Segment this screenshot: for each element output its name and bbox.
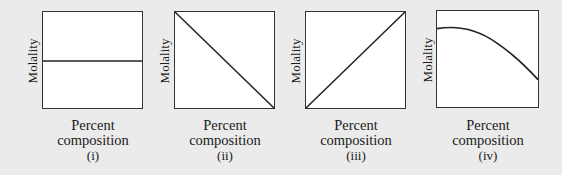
x-axis-label-line1: Percent [23, 118, 163, 133]
panel-i: Molality Percent composition (i) [23, 0, 163, 175]
increasing-line [306, 12, 405, 108]
y-axis-label: Molality [289, 31, 303, 91]
constant-line [43, 12, 142, 108]
panel-tag: (i) [23, 149, 163, 163]
x-axis-label-line2: composition [155, 133, 295, 148]
plot-area [436, 10, 539, 108]
panel-iii: Molality Percent composition (iii) [286, 0, 426, 175]
panel-ii: Molality Percent composition (ii) [155, 0, 295, 175]
y-axis-label: Molality [26, 31, 40, 91]
plot-area [305, 11, 406, 109]
panel-tag: (iii) [286, 149, 426, 163]
x-axis-label-line1: Percent [155, 118, 295, 133]
panel-tag: (iv) [418, 149, 558, 163]
x-axis-label-line1: Percent [418, 118, 558, 133]
y-axis-label: Molality [421, 30, 435, 90]
panel-iv: Molality Percent composition (iv) [418, 0, 558, 175]
x-axis-label-line1: Percent [286, 118, 426, 133]
x-axis-label-line2: composition [418, 133, 558, 148]
concave-down-curve [437, 11, 538, 107]
decreasing-line [175, 12, 274, 108]
x-axis-label-line2: composition [286, 133, 426, 148]
y-axis-label: Molality [158, 31, 172, 91]
x-axis-label-line2: composition [23, 133, 163, 148]
plot-area [174, 11, 275, 109]
panel-tag: (ii) [155, 149, 295, 163]
plot-area [42, 11, 143, 109]
